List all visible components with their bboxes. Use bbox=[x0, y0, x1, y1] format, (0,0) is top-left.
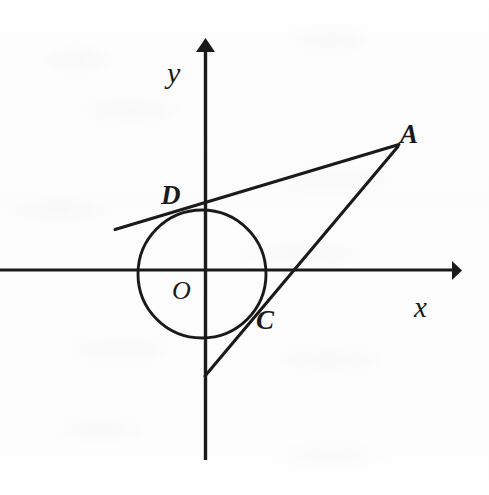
secant-line-DA bbox=[115, 145, 399, 230]
main-circle bbox=[138, 210, 266, 338]
x-axis-label: x bbox=[414, 293, 427, 322]
y-axis-group bbox=[196, 38, 215, 460]
line-A-to-lower bbox=[205, 147, 398, 377]
point-label-C: C bbox=[256, 307, 274, 334]
x-axis-group bbox=[0, 261, 462, 280]
origin-label-O: O bbox=[172, 278, 191, 304]
point-label-D: D bbox=[161, 182, 181, 209]
y-axis-arrowhead bbox=[196, 38, 215, 52]
geometry-diagram-svg bbox=[0, 0, 489, 495]
geometry-figure: y x D O C A bbox=[0, 0, 489, 495]
point-label-A: A bbox=[400, 121, 418, 148]
x-axis-arrowhead bbox=[452, 261, 462, 280]
y-axis-label: y bbox=[167, 58, 180, 88]
